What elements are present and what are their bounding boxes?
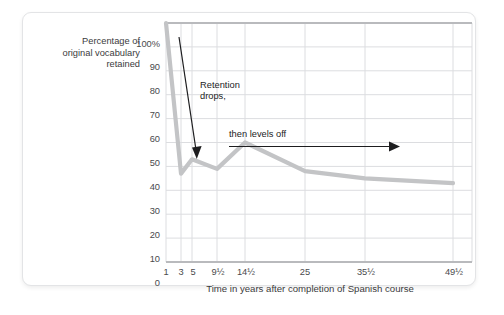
x-tick-25: 25 <box>300 267 310 277</box>
annotation-retention-drops: Retentiondrops, <box>200 80 240 103</box>
x-tick-9-5: 9½ <box>212 267 225 277</box>
x-tick-1: 1 <box>163 267 168 277</box>
x-tick-14-5: 14½ <box>237 267 255 277</box>
x-tick-3: 3 <box>178 267 183 277</box>
annotation-arrow-levels-off <box>229 142 400 152</box>
annotation-retention-drops-line-1: Retention <box>200 80 240 90</box>
annotation-levels-off: then levels off <box>229 129 286 140</box>
plot-grid <box>166 23 472 262</box>
annotation-retention-drops-line-2: drops, <box>200 91 226 101</box>
x-tick-35-5: 35½ <box>357 267 375 277</box>
x-axis-title: Time in years after completion of Spanis… <box>150 283 470 294</box>
y-tick-20: 20 <box>130 230 160 240</box>
y-tick-80: 80 <box>130 86 160 96</box>
y-tick-100: 100% <box>130 39 160 49</box>
annotation-arrow-retention-drops <box>179 37 202 159</box>
x-tick-49-5: 49½ <box>445 267 463 277</box>
y-tick-70: 70 <box>130 110 160 120</box>
y-tick-40: 40 <box>130 182 160 192</box>
y-tick-90: 90 <box>130 62 160 72</box>
x-tick-5: 5 <box>190 267 195 277</box>
y-tick-60: 60 <box>130 134 160 144</box>
y-tick-30: 30 <box>130 206 160 216</box>
y-tick-10: 10 <box>130 254 160 264</box>
y-tick-50: 50 <box>130 158 160 168</box>
